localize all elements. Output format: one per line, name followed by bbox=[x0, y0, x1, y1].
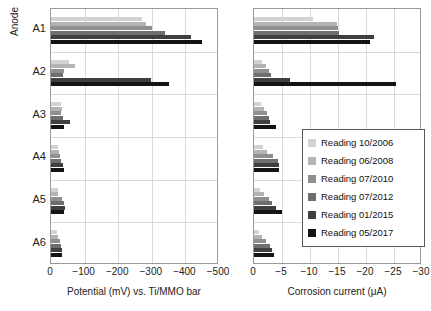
bar bbox=[51, 239, 60, 243]
bar bbox=[254, 248, 272, 252]
bar bbox=[254, 235, 262, 239]
bar bbox=[51, 120, 70, 124]
bar bbox=[254, 73, 271, 77]
bar bbox=[254, 64, 266, 68]
y-axis-tick-a3: A3 bbox=[22, 109, 46, 120]
bar bbox=[51, 244, 61, 248]
bar bbox=[51, 253, 62, 257]
gridline-horizontal bbox=[254, 52, 420, 53]
bar bbox=[254, 163, 279, 167]
legend-swatch-icon bbox=[308, 211, 316, 219]
legend-label: Reading 05/2017 bbox=[321, 228, 393, 238]
bar bbox=[254, 253, 274, 257]
x-axis-tick-label: −30 bbox=[413, 266, 430, 277]
bar bbox=[254, 201, 272, 205]
legend-item: Reading 10/2006 bbox=[308, 134, 419, 152]
bar bbox=[254, 40, 370, 44]
legend-swatch-icon bbox=[308, 139, 316, 147]
x-axis-tick-label: −5 bbox=[275, 266, 286, 277]
bar bbox=[254, 69, 269, 73]
legend-swatch-icon bbox=[308, 229, 316, 237]
bar-group-a5 bbox=[51, 188, 217, 215]
legend-item: Reading 07/2010 bbox=[308, 170, 419, 188]
y-axis-title: Anode bbox=[9, 0, 20, 52]
y-axis-tick-a6: A6 bbox=[22, 237, 46, 248]
bar bbox=[254, 197, 269, 201]
bar bbox=[254, 154, 273, 158]
bar bbox=[51, 107, 62, 111]
x-axis-tick-label: −200 bbox=[106, 266, 129, 277]
y-axis-tick-a4: A4 bbox=[22, 151, 46, 162]
bar bbox=[51, 145, 58, 149]
bar bbox=[51, 188, 58, 192]
bar bbox=[254, 17, 313, 21]
bar bbox=[51, 154, 60, 158]
bar bbox=[254, 192, 264, 196]
gridline-horizontal bbox=[254, 94, 420, 95]
bar-group-a2 bbox=[254, 60, 420, 87]
bar bbox=[51, 197, 62, 201]
bar bbox=[254, 82, 396, 86]
bar bbox=[51, 230, 57, 234]
x-axis-tick-label: −400 bbox=[173, 266, 196, 277]
legend-item: Reading 05/2017 bbox=[308, 224, 419, 242]
gridline-horizontal bbox=[51, 222, 217, 223]
y-axis-tick-a1: A1 bbox=[22, 23, 46, 34]
bar bbox=[254, 230, 259, 234]
potential-x-axis-ticks: 0−100−200−300−400−500 bbox=[50, 266, 218, 280]
bar bbox=[51, 168, 64, 172]
legend-label: Reading 06/2008 bbox=[321, 156, 393, 166]
bar bbox=[254, 111, 267, 115]
bar bbox=[51, 201, 64, 205]
y-axis-tick-a5: A5 bbox=[22, 194, 46, 205]
gridline-horizontal bbox=[51, 94, 217, 95]
legend-swatch-icon bbox=[308, 175, 316, 183]
bar bbox=[254, 31, 339, 35]
bar bbox=[51, 111, 61, 115]
x-axis-tick-label: −20 bbox=[357, 266, 374, 277]
bar bbox=[51, 210, 64, 214]
bar-group-a3 bbox=[254, 102, 420, 129]
bar bbox=[51, 64, 75, 68]
potential-x-axis-title: Potential (mV) vs. Ti/MMO bar bbox=[50, 286, 218, 297]
gridline-vertical bbox=[282, 9, 283, 263]
x-axis-tick-label: −25 bbox=[385, 266, 402, 277]
bar bbox=[51, 206, 65, 210]
bar bbox=[51, 248, 62, 252]
y-axis-tick-a2: A2 bbox=[22, 66, 46, 77]
legend-swatch-icon bbox=[308, 193, 316, 201]
bar bbox=[254, 107, 264, 111]
bar bbox=[51, 69, 64, 73]
legend-label: Reading 07/2010 bbox=[321, 174, 393, 184]
bar bbox=[51, 163, 63, 167]
x-axis-tick-label: 0 bbox=[47, 266, 53, 277]
legend-item: Reading 06/2008 bbox=[308, 152, 419, 170]
bar-group-a1 bbox=[254, 17, 420, 44]
bar bbox=[51, 22, 146, 26]
bar bbox=[254, 116, 269, 120]
chart-legend: Reading 10/2006Reading 06/2008Reading 07… bbox=[302, 129, 425, 247]
bar bbox=[254, 78, 290, 82]
x-axis-tick-label: 0 bbox=[250, 266, 256, 277]
bar bbox=[254, 244, 270, 248]
gridline-horizontal bbox=[51, 180, 217, 181]
bar bbox=[254, 22, 337, 26]
bar bbox=[51, 31, 165, 35]
bar bbox=[254, 60, 262, 64]
bar bbox=[51, 150, 59, 154]
x-axis-tick-label: −100 bbox=[72, 266, 95, 277]
bar bbox=[51, 125, 64, 129]
x-axis-tick-label: −10 bbox=[301, 266, 318, 277]
gridline-vertical bbox=[185, 9, 186, 263]
bar bbox=[254, 120, 270, 124]
corrosion-current-x-axis-ticks: 0−5−10−15−20−25−30 bbox=[253, 266, 421, 280]
bar bbox=[51, 35, 191, 39]
gridline-horizontal bbox=[51, 52, 217, 53]
bar bbox=[51, 116, 63, 120]
potential-chart-plot-area bbox=[50, 8, 218, 264]
bar bbox=[254, 168, 279, 172]
gridline-vertical bbox=[152, 9, 153, 263]
gridline-vertical bbox=[85, 9, 86, 263]
x-axis-tick-label: −500 bbox=[207, 266, 230, 277]
bar bbox=[254, 188, 260, 192]
